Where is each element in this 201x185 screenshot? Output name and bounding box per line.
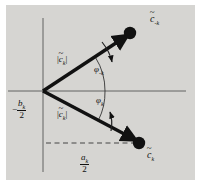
label-vector-c-minus-k: ~c-k bbox=[150, 14, 159, 26]
abs-bar-close: | bbox=[65, 109, 67, 119]
tilde-accent-icon: ~ bbox=[58, 104, 63, 113]
abs-bar-close: | bbox=[65, 54, 67, 64]
subscript-k: k bbox=[86, 158, 89, 164]
tilde-accent-icon: ~ bbox=[147, 144, 152, 153]
denominator-2: 2 bbox=[17, 111, 26, 120]
label-axis-a-over-2: ak 2 bbox=[80, 153, 89, 175]
complex-vector-diagram: ~c-k ~ck |~ck| |~ck| φ-k φk − bk 2 ak 2 bbox=[0, 0, 201, 185]
subscript-k: k bbox=[151, 156, 154, 162]
vector-head-dot-c-minus-k bbox=[124, 27, 136, 39]
subscript-k: k bbox=[23, 104, 26, 110]
diagram-graphics bbox=[0, 0, 201, 185]
label-angle-phi-k: φk bbox=[96, 96, 104, 107]
tilde-accent-icon: ~ bbox=[150, 8, 155, 17]
subscript-minus-k: -k bbox=[154, 20, 159, 26]
label-vector-c-k: ~ck bbox=[147, 150, 154, 162]
tilde-accent-icon: ~ bbox=[58, 49, 63, 58]
denominator-2: 2 bbox=[80, 165, 89, 174]
label-axis-minus-b-over-2: − bk 2 bbox=[12, 99, 26, 121]
label-magnitude-lower: |~ck| bbox=[57, 110, 67, 121]
subscript-k: k bbox=[101, 101, 104, 107]
label-magnitude-upper: |~ck| bbox=[57, 55, 67, 66]
vector-c-minus-k bbox=[43, 39, 122, 91]
subscript-minus-k: -k bbox=[99, 70, 104, 76]
label-angle-phi-minus-k: φ-k bbox=[94, 65, 104, 76]
vector-head-dot-c-k bbox=[133, 137, 145, 149]
